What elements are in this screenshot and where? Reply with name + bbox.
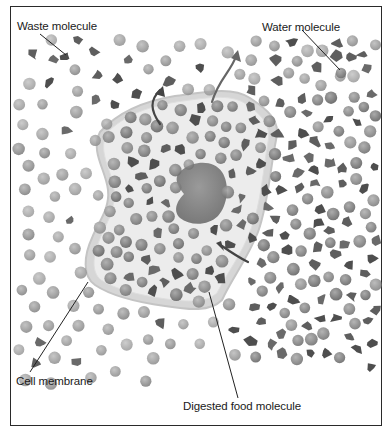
water-molecule [170, 182, 182, 194]
water-molecule [291, 353, 303, 365]
water-molecule [353, 235, 366, 248]
water-molecule [221, 186, 234, 199]
waste-molecule [322, 348, 332, 359]
waste-molecule [370, 306, 381, 316]
water-molecule [195, 149, 206, 160]
waste-molecule [317, 294, 325, 304]
waste-molecule [256, 317, 266, 325]
water-molecule [299, 302, 310, 313]
water-molecule [370, 39, 381, 50]
water-molecule [215, 152, 227, 164]
label-cell-membrane: Cell membrane [16, 375, 93, 387]
waste-molecule [66, 216, 74, 224]
waste-molecule [124, 54, 133, 63]
waste-molecule [307, 349, 315, 357]
water-molecule [130, 213, 142, 225]
waste-molecule [73, 36, 83, 45]
water-molecule [96, 345, 107, 356]
water-molecule [123, 198, 133, 208]
water-molecule [75, 266, 87, 278]
water-molecule [61, 335, 72, 346]
water-molecule [120, 284, 132, 296]
water-molecule [136, 40, 148, 52]
water-molecule [39, 147, 50, 158]
water-molecule [305, 333, 318, 346]
water-molecule [349, 92, 360, 103]
water-molecule [101, 118, 112, 129]
waste-molecule [268, 338, 278, 350]
water-molecule [141, 132, 152, 143]
water-molecule [350, 157, 362, 169]
water-molecule [93, 190, 104, 201]
water-molecule [103, 324, 114, 335]
water-molecule [270, 171, 281, 182]
waste-molecule [360, 270, 371, 278]
waste-molecule [257, 257, 267, 268]
water-molecule [166, 122, 179, 135]
waste-molecule [282, 154, 294, 163]
water-molecule [216, 255, 229, 268]
water-molecule [267, 251, 279, 263]
water-molecule [234, 69, 245, 80]
waste-molecule [249, 303, 260, 311]
water-molecule [114, 225, 125, 236]
water-molecule [295, 278, 307, 290]
waste-molecule [315, 204, 326, 214]
waste-molecule [311, 62, 321, 73]
water-molecule [250, 352, 261, 363]
waste-molecule [344, 333, 354, 341]
waste-molecule [368, 254, 379, 263]
water-molecule [101, 258, 114, 271]
waste-molecule [301, 110, 313, 118]
water-molecule [279, 308, 290, 319]
water-molecule [193, 296, 205, 308]
water-molecule [151, 120, 164, 133]
water-molecule [140, 376, 151, 387]
waste-molecule [308, 165, 319, 175]
water-molecule [37, 99, 47, 109]
water-molecule [143, 64, 153, 74]
waste-molecule [363, 317, 374, 325]
waste-molecule [301, 321, 312, 330]
waste-molecule [269, 54, 281, 66]
water-molecule [284, 106, 296, 118]
water-molecule [302, 193, 313, 204]
waste-molecule [112, 73, 123, 84]
water-molecule [359, 102, 370, 113]
water-molecule [195, 38, 207, 50]
waste-molecule [262, 229, 274, 237]
water-molecule [194, 338, 205, 349]
waste-molecule [276, 282, 284, 294]
water-molecule [220, 219, 233, 232]
water-molecule [292, 56, 303, 67]
water-molecule [360, 208, 371, 219]
water-molecule [65, 148, 76, 159]
water-molecule [248, 73, 260, 85]
waste-molecule [361, 64, 371, 74]
waste-molecule [131, 88, 142, 99]
water-molecule [67, 300, 79, 312]
water-molecule [269, 41, 280, 52]
water-molecule [304, 228, 316, 240]
water-molecule [17, 119, 28, 130]
water-molecule [143, 334, 153, 344]
water-molecule [366, 222, 377, 233]
water-molecule [70, 64, 81, 75]
water-molecule [360, 290, 370, 300]
water-molecule [169, 164, 182, 177]
waste-molecule [338, 180, 346, 188]
waste-molecule [330, 49, 343, 62]
water-molecule [19, 183, 31, 195]
water-molecule [222, 46, 234, 58]
water-molecule [344, 136, 356, 148]
water-molecule [146, 211, 157, 222]
water-molecule [23, 206, 35, 218]
water-molecule [33, 272, 46, 285]
waste-molecule [282, 244, 293, 255]
water-molecule [121, 142, 133, 154]
water-molecule [108, 176, 121, 189]
waste-molecule [298, 93, 306, 104]
waste-molecule [344, 261, 353, 270]
waste-molecule [279, 231, 289, 240]
water-molecule [269, 148, 281, 160]
